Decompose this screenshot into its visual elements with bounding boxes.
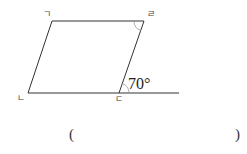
angle-arc-d	[134, 21, 141, 31]
angle-value-70: 70°	[128, 76, 150, 92]
answer-open-paren: (	[69, 127, 74, 142]
side-left	[28, 21, 52, 93]
vertex-label-rieul: ㄹ	[147, 10, 155, 19]
answer-blank[interactable]	[80, 126, 230, 144]
vertex-label-nieun: ㄴ	[17, 94, 25, 103]
vertex-label-giyeok: ㄱ	[43, 10, 51, 19]
vertex-label-digeut: ㄷ	[115, 95, 123, 104]
answer-close-paren: )	[235, 127, 240, 142]
